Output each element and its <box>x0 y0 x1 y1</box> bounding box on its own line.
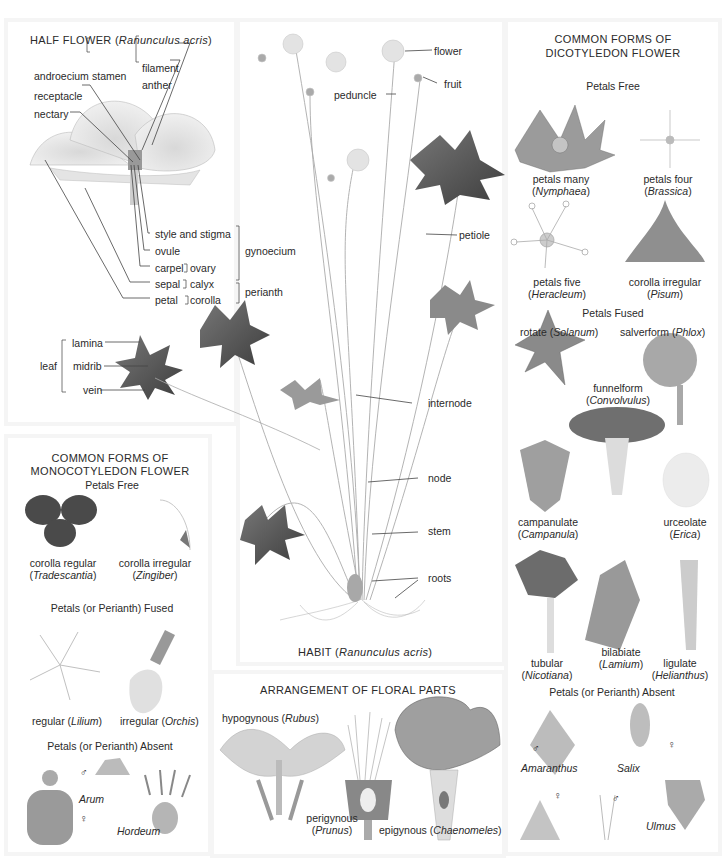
dicot-item-amaranthus: Amaranthus <box>521 762 578 774</box>
dicot-salix-male: ♂ <box>612 792 620 804</box>
monocot-title-line2: MONOCOTYLEDON FLOWER <box>31 465 190 477</box>
monocot-section-fused: Petals (or Perianth) Fused <box>51 602 174 614</box>
dicot-item-solanum: rotate (Solanum) <box>520 326 598 338</box>
label-style-and-stigma: style and stigma <box>155 228 231 240</box>
dicot-item-convolvulus: funnelform (Convolvulus) <box>586 382 650 406</box>
dicot-amaranthus-female: ♀ <box>554 789 562 801</box>
label-petiole: petiole <box>459 229 490 241</box>
dicot-item-phlox: salverform (Phlox) <box>620 326 705 338</box>
label-receptacle: receptacle <box>34 90 82 102</box>
dicot-item-brassica: petals four (Brassica) <box>643 173 692 197</box>
dicot-title-line2: DICOTYLEDON FLOWER <box>546 47 681 59</box>
label-androecium: androecium <box>34 70 89 82</box>
label-midrib: midrib <box>73 360 102 372</box>
label-calyx: calyx <box>190 278 214 290</box>
habit-title: HABIT (Ranunculus acris) <box>298 646 432 658</box>
dicot-salix-female: ♀ <box>668 738 676 750</box>
habit-leaves <box>200 130 505 565</box>
label-leaf: leaf <box>40 360 57 372</box>
habit-roots <box>280 574 425 620</box>
dicot-section-fused: Petals Fused <box>582 307 643 319</box>
dicot-item-erica: urceolate (Erica) <box>663 516 706 540</box>
label-nectary: nectary <box>34 108 68 120</box>
dicot-item-lamium: bilabiate (Lamium) <box>599 646 643 670</box>
label-ovule: ovule <box>155 245 180 257</box>
label-lamina: lamina <box>72 337 103 349</box>
monocot-item-orchis: irregular (Orchis) <box>120 715 199 727</box>
half-flower-title: HALF FLOWER (Ranunculus acris) <box>30 34 212 46</box>
dicot-section-absent: Petals (or Perianth) Absent <box>549 686 674 698</box>
dicot-item-nymphaea: petals many (Nymphaea) <box>532 173 590 197</box>
label-gynoecium: gynoecium <box>245 245 296 257</box>
label-stem: stem <box>428 525 451 537</box>
label-stamen: stamen <box>92 70 126 82</box>
dicot-title-line1: COMMON FORMS OF <box>555 33 672 45</box>
dicot-item-heracleum: petals five (Heracleum) <box>528 276 586 300</box>
monocot-item-zingiber: corolla irregular (Zingiber) <box>119 557 191 581</box>
arrangement-item-rubus: hypogynous (Rubus) <box>222 712 319 724</box>
monocot-arum-female: ♀ <box>80 812 88 824</box>
monocot-item-tradescantia: corolla regular (Tradescantia) <box>30 557 97 581</box>
label-perianth: perianth <box>245 286 283 298</box>
dicot-item-helianthus: ligulate (Helianthus) <box>652 657 709 681</box>
monocot-illustrations <box>25 495 190 845</box>
dicot-item-nicotiana: tubular (Nicotiana) <box>522 657 573 681</box>
label-filament: filament <box>142 62 179 74</box>
label-roots: roots <box>428 572 451 584</box>
label-sepal: sepal <box>155 278 180 290</box>
monocot-item-arum: Arum <box>79 793 104 805</box>
label-anther: anther <box>142 79 172 91</box>
label-node: node <box>428 472 451 484</box>
dicot-section-free: Petals Free <box>586 80 640 92</box>
dicot-item-salix: Salix <box>617 762 640 774</box>
label-internode: internode <box>428 397 472 409</box>
habit-flowers <box>258 34 422 182</box>
dicot-amaranthus-male: ♂ <box>532 742 540 754</box>
label-carpel: carpel <box>155 262 184 274</box>
arrangement-title: ARRANGEMENT OF FLORAL PARTS <box>260 684 456 696</box>
monocot-title-line1: COMMON FORMS OF <box>52 452 169 464</box>
illustration-layer <box>0 0 725 866</box>
dicot-item-pisum: corolla irregular (Pisum) <box>629 276 701 300</box>
label-vein: vein <box>83 384 102 396</box>
dicot-item-campanula: campanulate (Campanula) <box>518 516 579 540</box>
dicot-item-ulmus: Ulmus <box>646 820 676 832</box>
dicot-illustrations <box>511 105 709 840</box>
label-corolla: corolla <box>190 294 221 306</box>
monocot-section-free: Petals Free <box>85 479 139 491</box>
monocot-item-lilium: regular (Lilium) <box>32 715 102 727</box>
monocot-item-hordeum: Hordeum <box>117 825 160 837</box>
label-ovary: ovary <box>190 262 216 274</box>
arrangement-item-chaenomeles: epigynous (Chaenomeles) <box>379 824 502 836</box>
monocot-section-absent: Petals (or Perianth) Absent <box>47 740 172 752</box>
arrangement-item-prunus: perigynous (Prunus) <box>306 812 357 836</box>
label-fruit: fruit <box>444 78 462 90</box>
monocot-arum-male: ♂ <box>80 766 88 778</box>
label-flower: flower <box>434 45 462 57</box>
label-petal: petal <box>155 294 178 306</box>
label-peduncle: peduncle <box>334 89 377 101</box>
